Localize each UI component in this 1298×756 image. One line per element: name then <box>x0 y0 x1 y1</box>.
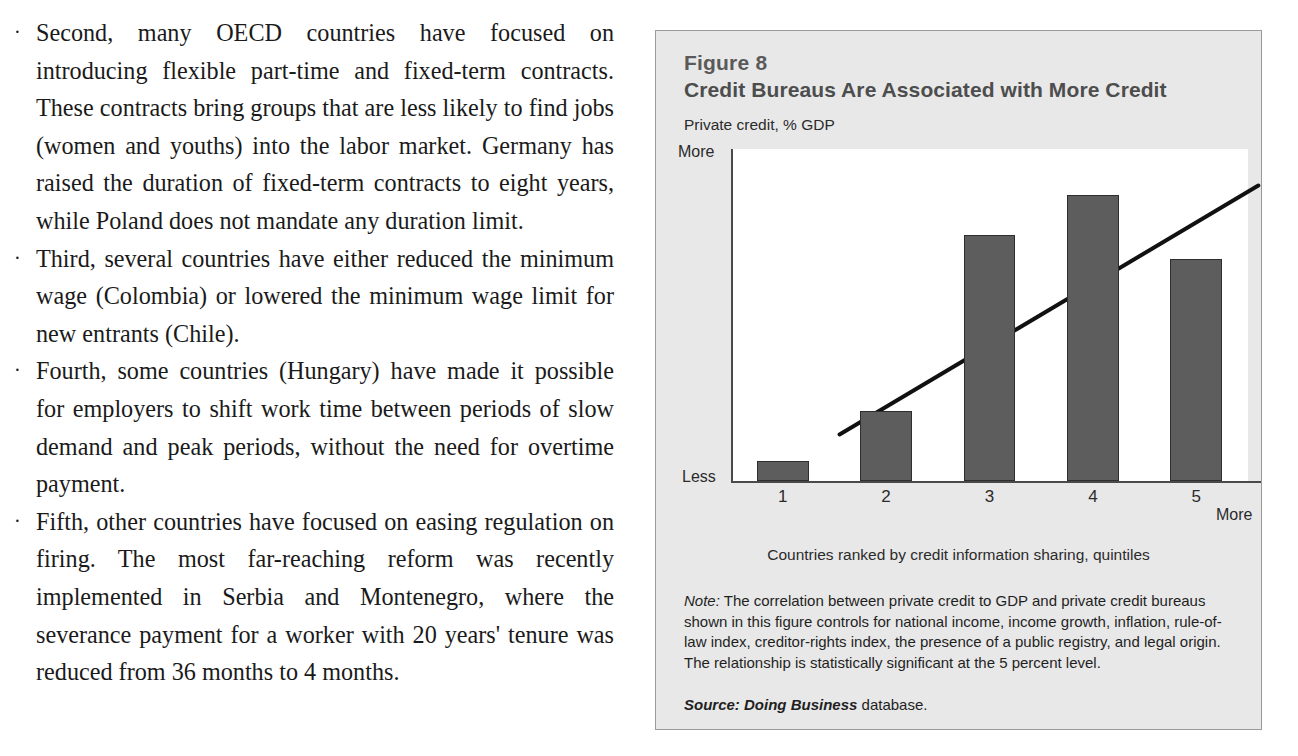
x-tick-3: 3 <box>970 487 1010 507</box>
x-axis-caption: Countries ranked by credit information s… <box>656 546 1261 564</box>
bullet-marker-icon: · <box>14 503 21 541</box>
bar-quintile-5 <box>1170 259 1222 481</box>
list-item: · Second, many OECD countries have focus… <box>6 14 614 240</box>
x-axis-line <box>731 481 1261 483</box>
list-item-text: Fifth, other countries have focused on e… <box>36 508 614 685</box>
bullet-list: · Second, many OECD countries have focus… <box>6 14 614 691</box>
list-item-text: Fourth, some countries (Hungary) have ma… <box>36 357 614 497</box>
note-text: The correlation between private credit t… <box>684 592 1222 671</box>
bar-quintile-4 <box>1067 195 1119 481</box>
source-tail: database. <box>857 696 927 713</box>
figure-panel: Figure 8 Credit Bureaus Are Associated w… <box>655 30 1262 730</box>
note-label: Note: <box>684 592 720 609</box>
body-text-column: · Second, many OECD countries have focus… <box>0 0 614 756</box>
y-axis-low-label: Less <box>682 468 716 486</box>
x-tick-4: 4 <box>1073 487 1113 507</box>
list-item: · Fourth, some countries (Hungary) have … <box>6 352 614 502</box>
list-item: · Fifth, other countries have focused on… <box>6 503 614 691</box>
figure-source: Source: Doing Business database. <box>684 696 1232 713</box>
x-tick-1: 1 <box>763 487 803 507</box>
source-label: Source: <box>684 696 740 713</box>
bar-quintile-1 <box>757 461 809 481</box>
list-item-text: Second, many OECD countries have focused… <box>36 19 614 234</box>
x-tick-5: 5 <box>1176 487 1216 507</box>
list-item: · Third, several countries have either r… <box>6 240 614 353</box>
bullet-marker-icon: · <box>14 352 21 390</box>
figure-note: Note: The correlation between private cr… <box>684 591 1232 673</box>
list-item-text: Third, several countries have either red… <box>36 245 614 347</box>
x-tick-2: 2 <box>866 487 906 507</box>
bullet-marker-icon: · <box>14 14 21 52</box>
bar-quintile-2 <box>860 411 912 481</box>
bullet-marker-icon: · <box>14 240 21 278</box>
x-axis-high-label: More <box>1216 506 1252 524</box>
source-database-name: Doing Business <box>740 696 858 713</box>
page-root: · Second, many OECD countries have focus… <box>0 0 1298 756</box>
bar-quintile-3 <box>964 235 1016 481</box>
y-axis-high-label: More <box>678 143 714 161</box>
